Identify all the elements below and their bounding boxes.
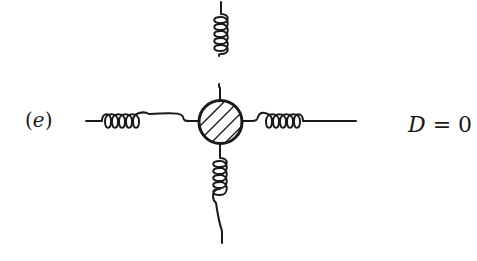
feynman-diagram [0, 0, 477, 261]
gluon-leg-bottom [213, 145, 227, 243]
gluon-leg-top [214, 2, 228, 100]
panel-label: (e) [25, 108, 52, 132]
gluon-leg-left [86, 112, 198, 127]
superficial-degree-label: D = 0 [408, 112, 472, 137]
gluon-leg-right [243, 113, 356, 128]
vertex-blob [196, 101, 248, 151]
